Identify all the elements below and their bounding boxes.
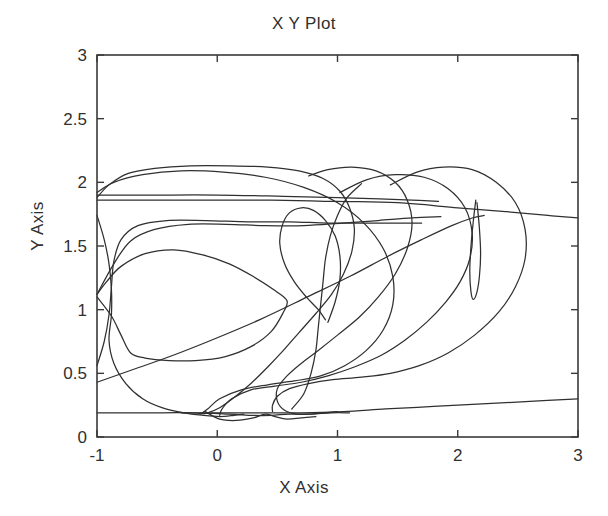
curve-series-group: [97, 166, 578, 421]
x-tick-label: 0: [213, 446, 222, 465]
chart-figure: X Y Plot Y Axis X Axis -1012300.511.522.…: [0, 0, 608, 516]
xy-plot-canvas: -1012300.511.522.53: [0, 0, 608, 516]
y-tick-label: 1: [78, 301, 87, 320]
curve-trajectory-6: [97, 215, 244, 416]
y-tick-label: 0: [78, 428, 87, 447]
y-tick-label: 0.5: [63, 364, 87, 383]
y-tick-label: 2: [78, 173, 87, 192]
curve-trajectory-11: [220, 175, 473, 416]
y-tick-label: 2.5: [63, 110, 87, 129]
x-tick-label: 2: [453, 446, 462, 465]
curve-trajectory-5: [97, 215, 484, 382]
curve-trajectory-9: [97, 250, 287, 361]
curve-trajectory-17: [292, 184, 362, 409]
y-tick-label: 1.5: [63, 237, 87, 256]
x-tick-label: 3: [573, 446, 582, 465]
x-tick-label: -1: [89, 446, 104, 465]
curve-trajectory-10: [276, 167, 412, 414]
y-tick-label: 3: [78, 46, 87, 65]
curve-trajectory-14: [181, 399, 578, 413]
x-tick-label: 1: [333, 446, 342, 465]
